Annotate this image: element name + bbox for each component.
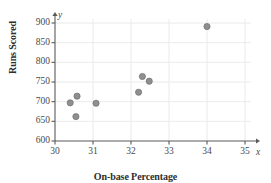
x-axis-title: On-base Percentage	[0, 171, 271, 182]
y-tick-label: 900	[26, 18, 50, 28]
data-point	[73, 114, 79, 120]
y-axis-arrowhead	[52, 12, 57, 16]
x-tick-label: 35	[233, 147, 257, 157]
x-axis-variable-label: x	[256, 147, 260, 157]
scatter-plot-figure: 600650700750800850900303132333435 y x On…	[0, 0, 271, 183]
data-point	[74, 93, 80, 99]
x-tick-label: 30	[43, 147, 67, 157]
data-point	[139, 73, 145, 79]
data-point	[93, 100, 99, 106]
x-tick-label: 31	[81, 147, 105, 157]
y-tick-label: 650	[26, 116, 50, 126]
y-axis-title: Runs Scored	[7, 13, 18, 83]
y-tick-label: 850	[26, 38, 50, 48]
data-point	[204, 23, 210, 29]
x-tick-label: 33	[157, 147, 181, 157]
y-tick-label: 700	[26, 97, 50, 107]
data-point	[136, 89, 142, 95]
x-axis-arrowhead	[256, 138, 260, 143]
x-tick-label: 32	[119, 147, 143, 157]
data-point	[67, 100, 73, 106]
x-tick-label: 34	[195, 147, 219, 157]
y-tick-label: 750	[26, 77, 50, 87]
data-point	[146, 78, 152, 84]
y-axis-variable-label: y	[58, 10, 62, 20]
y-tick-label: 600	[26, 136, 50, 146]
y-tick-label: 800	[26, 57, 50, 67]
